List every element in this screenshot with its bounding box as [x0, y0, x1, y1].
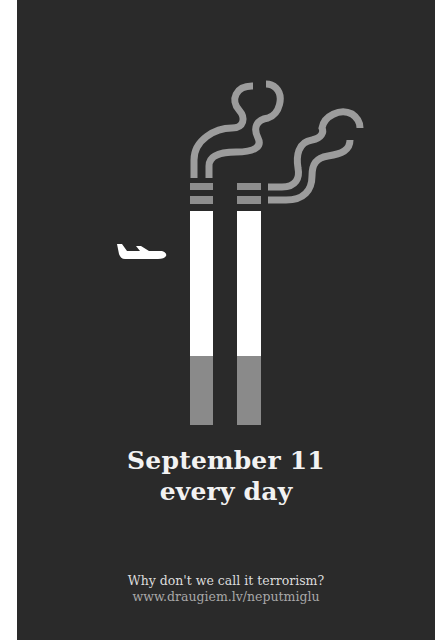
campaign-url: www.draugiem.lv/neputmiglu — [17, 589, 435, 604]
smoke-icon — [194, 84, 360, 200]
headline-line-2: every day — [17, 477, 435, 507]
tagline-question: Why don't we call it terrorism? — [17, 573, 435, 588]
airplane-icon — [117, 244, 166, 259]
cigarette-icon — [190, 183, 213, 425]
cigarette-icon — [237, 183, 261, 425]
poster-illustration — [0, 0, 442, 644]
headline-line-1: September 11 — [17, 446, 435, 476]
